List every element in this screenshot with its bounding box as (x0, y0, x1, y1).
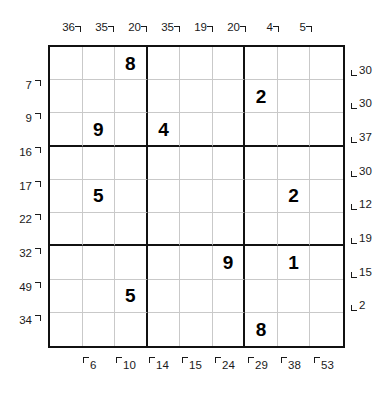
empty-cell-r7c9[interactable] (310, 246, 343, 279)
empty-cell-r3c6[interactable] (213, 113, 246, 146)
clue-left-row8: 49 (19, 282, 32, 294)
clue-right-row2-arrow-icon (351, 103, 357, 109)
clue-right-row7: 15 (359, 267, 372, 279)
empty-cell-r7c2[interactable] (83, 246, 116, 279)
clue-bottom-col7: 29 (255, 360, 268, 372)
empty-cell-r1c9[interactable] (310, 47, 343, 80)
empty-cell-r7c5[interactable] (180, 246, 213, 279)
empty-cell-r4c6[interactable] (213, 147, 246, 180)
clue-bottom-col8-arrow-icon (281, 357, 287, 363)
clue-right-row3-arrow-icon (351, 137, 357, 143)
empty-cell-r2c9[interactable] (310, 80, 343, 113)
empty-cell-r1c7[interactable] (245, 47, 278, 80)
empty-cell-r2c1[interactable] (50, 80, 83, 113)
clue-left-row9: 34 (19, 315, 32, 327)
empty-cell-r3c8[interactable] (278, 113, 311, 146)
empty-cell-r7c4[interactable] (148, 246, 181, 279)
clue-top-col2-arrow-icon (108, 26, 114, 32)
empty-cell-r4c1[interactable] (50, 147, 83, 180)
empty-cell-r9c6[interactable] (213, 313, 246, 346)
clue-top-col7-arrow-icon (273, 26, 279, 32)
empty-cell-r4c5[interactable] (180, 147, 213, 180)
sudoku-puzzle: 8294529158 36352035192045791617223249343… (0, 0, 386, 393)
sudoku-grid[interactable]: 8294529158 (48, 45, 345, 348)
empty-cell-r5c7[interactable] (245, 180, 278, 213)
empty-cell-r8c5[interactable] (180, 280, 213, 313)
empty-cell-r1c1[interactable] (50, 47, 83, 80)
empty-cell-r9c4[interactable] (148, 313, 181, 346)
clue-left-row7-value: 32 (19, 248, 32, 260)
empty-cell-r7c7[interactable] (245, 246, 278, 279)
clue-bottom-col2-value: 6 (90, 360, 96, 372)
clue-bottom-col7-arrow-icon (248, 357, 254, 363)
empty-cell-r4c7[interactable] (245, 147, 278, 180)
empty-cell-r3c5[interactable] (180, 113, 213, 146)
empty-cell-r8c1[interactable] (50, 280, 83, 313)
clue-left-row6-arrow-icon (35, 214, 41, 220)
empty-cell-r6c9[interactable] (310, 213, 343, 246)
empty-cell-r3c3[interactable] (115, 113, 148, 146)
empty-cell-r2c5[interactable] (180, 80, 213, 113)
empty-cell-r6c8[interactable] (278, 213, 311, 246)
empty-cell-r7c1[interactable] (50, 246, 83, 279)
clue-right-row6-arrow-icon (351, 238, 357, 244)
empty-cell-r1c5[interactable] (180, 47, 213, 80)
empty-cell-r1c2[interactable] (83, 47, 116, 80)
empty-cell-r5c5[interactable] (180, 180, 213, 213)
empty-cell-r1c4[interactable] (148, 47, 181, 80)
empty-cell-r6c2[interactable] (83, 213, 116, 246)
clue-top-col5-arrow-icon (207, 26, 213, 32)
empty-cell-r2c8[interactable] (278, 80, 311, 113)
empty-cell-r6c7[interactable] (245, 213, 278, 246)
empty-cell-r4c8[interactable] (278, 147, 311, 180)
empty-cell-r9c8[interactable] (278, 313, 311, 346)
empty-cell-r6c3[interactable] (115, 213, 148, 246)
empty-cell-r2c6[interactable] (213, 80, 246, 113)
empty-cell-r6c6[interactable] (213, 213, 246, 246)
clue-right-row4-arrow-icon (351, 171, 357, 177)
empty-cell-r3c9[interactable] (310, 113, 343, 146)
empty-cell-r6c5[interactable] (180, 213, 213, 246)
empty-cell-r8c8[interactable] (278, 280, 311, 313)
empty-cell-r2c2[interactable] (83, 80, 116, 113)
empty-cell-r8c6[interactable] (213, 280, 246, 313)
empty-cell-r2c3[interactable] (115, 80, 148, 113)
empty-cell-r3c1[interactable] (50, 113, 83, 146)
clue-left-row3-value: 9 (26, 113, 32, 125)
empty-cell-r9c9[interactable] (310, 313, 343, 346)
empty-cell-r8c4[interactable] (148, 280, 181, 313)
empty-cell-r5c4[interactable] (148, 180, 181, 213)
clue-left-row9-value: 34 (19, 315, 32, 327)
empty-cell-r6c4[interactable] (148, 213, 181, 246)
empty-cell-r1c6[interactable] (213, 47, 246, 80)
empty-cell-r9c5[interactable] (180, 313, 213, 346)
empty-cell-r4c4[interactable] (148, 147, 181, 180)
empty-cell-r3c7[interactable] (245, 113, 278, 146)
empty-cell-r8c7[interactable] (245, 280, 278, 313)
empty-cell-r5c3[interactable] (115, 180, 148, 213)
empty-cell-r1c8[interactable] (278, 47, 311, 80)
empty-cell-r6c1[interactable] (50, 213, 83, 246)
clue-bottom-col6-value: 24 (222, 360, 235, 372)
empty-cell-r4c3[interactable] (115, 147, 148, 180)
clue-left-row8-value: 49 (19, 282, 32, 294)
given-cell-r8c3: 5 (115, 280, 148, 313)
empty-cell-r9c1[interactable] (50, 313, 83, 346)
clue-right-row8-value: 2 (359, 300, 365, 312)
empty-cell-r9c2[interactable] (83, 313, 116, 346)
clue-bottom-col3-arrow-icon (116, 357, 122, 363)
clue-right-row1-arrow-icon (351, 70, 357, 76)
empty-cell-r7c3[interactable] (115, 246, 148, 279)
empty-cell-r9c3[interactable] (115, 313, 148, 346)
empty-cell-r4c9[interactable] (310, 147, 343, 180)
empty-cell-r8c9[interactable] (310, 280, 343, 313)
empty-cell-r5c6[interactable] (213, 180, 246, 213)
empty-cell-r8c2[interactable] (83, 280, 116, 313)
empty-cell-r5c1[interactable] (50, 180, 83, 213)
empty-cell-r5c9[interactable] (310, 180, 343, 213)
empty-cell-r4c2[interactable] (83, 147, 116, 180)
clue-bottom-col6-arrow-icon (215, 357, 221, 363)
empty-cell-r2c4[interactable] (148, 80, 181, 113)
clue-right-row7-arrow-icon (351, 272, 357, 278)
clue-bottom-col8: 38 (288, 360, 301, 372)
